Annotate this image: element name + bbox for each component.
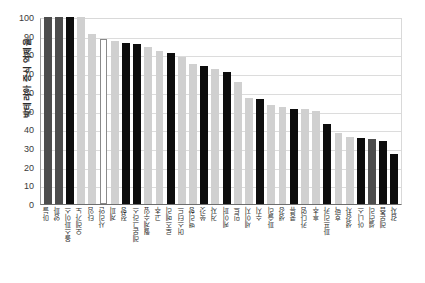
y-tick-label: 60 — [24, 88, 34, 98]
x-tick-label: 후추 — [313, 207, 321, 221]
x-tick-slot: 사리안 — [97, 207, 108, 283]
x-tick-label: 세이지 — [245, 207, 253, 228]
bar — [88, 34, 96, 204]
x-tick-slot: 호박 — [334, 207, 345, 283]
x-tick-slot: 수지 — [255, 207, 266, 283]
y-tick-label: 40 — [24, 125, 34, 135]
bar — [55, 17, 63, 204]
bar — [335, 133, 343, 204]
x-tick-label: 로즈메리 — [167, 207, 175, 235]
x-tick-label: 아니스 — [358, 207, 366, 228]
bar-slot — [344, 19, 355, 204]
x-tick-slot: 생강차 — [345, 207, 356, 283]
bar — [223, 72, 231, 204]
bar-slot — [199, 19, 210, 204]
x-tick-slot: 케이퍼 — [221, 207, 232, 283]
x-tick-slot: 머스터드 — [176, 207, 187, 283]
x-tick-label: 호박 — [335, 207, 343, 221]
bar — [66, 17, 74, 204]
bar-slot — [165, 19, 176, 204]
bar-slot — [333, 19, 344, 204]
plot-area — [40, 18, 402, 205]
x-tick-label: 정향 — [122, 207, 130, 221]
bar-slot — [255, 19, 266, 204]
x-tick-label: 겨자 — [212, 207, 220, 221]
x-tick-slot: 아니스 — [356, 207, 367, 283]
bar-slot — [120, 19, 131, 204]
bar — [111, 41, 119, 204]
x-tick-slot: 오레가노 — [75, 207, 86, 283]
bar-slot — [266, 19, 277, 204]
bar-slot — [389, 19, 400, 204]
x-tick-slot: 타임 — [86, 207, 97, 283]
y-axis-tick-labels: 1009080706050403020100 — [0, 0, 37, 223]
x-tick-label: 월계수잎 — [144, 207, 152, 235]
bar — [245, 98, 253, 204]
x-tick-slot: 마늘 — [41, 207, 52, 283]
bar-slot — [277, 19, 288, 204]
bar — [77, 17, 85, 204]
bar — [301, 109, 309, 204]
x-tick-label: 쑥갓 — [200, 207, 208, 221]
bar-slot — [243, 19, 254, 204]
bar-slot — [210, 19, 221, 204]
x-tick-label: 양파 — [54, 207, 62, 221]
bar-slot — [176, 19, 187, 204]
x-tick-slot: 생강 — [277, 207, 288, 283]
x-tick-label: 생강 — [279, 207, 287, 221]
x-tick-label: 수지 — [257, 207, 265, 221]
x-tick-slot: 레몬즙 — [379, 207, 390, 283]
x-tick-slot: 카다멈 — [300, 207, 311, 283]
bar — [234, 82, 242, 204]
bar-slot — [154, 19, 165, 204]
x-tick-slot: 감자 — [390, 207, 401, 283]
bar — [312, 111, 320, 205]
x-tick-label: 타임 — [88, 207, 96, 221]
y-tick-label: 80 — [24, 50, 34, 60]
x-tick-label: 민트 — [234, 207, 242, 221]
bar-chart: 박테리아 증식 억제율 1009080706050403020100 마늘양파올… — [0, 0, 425, 283]
x-tick-label: 백리향 — [189, 207, 197, 228]
bar-slot — [366, 19, 377, 204]
y-tick-label: 50 — [24, 107, 34, 117]
x-tick-slot: 셀러리 — [367, 207, 378, 283]
x-tick-slot: 후추 — [311, 207, 322, 283]
x-tick-slot: 겨자 — [210, 207, 221, 283]
x-tick-slot: 양파 — [52, 207, 63, 283]
x-tick-slot: 레몬그라스 — [131, 207, 142, 283]
bar-slot — [311, 19, 322, 204]
bar-slot — [187, 19, 198, 204]
bar — [357, 138, 365, 204]
bar — [178, 57, 186, 204]
bars-layer — [41, 19, 401, 204]
x-tick-slot: 정향 — [120, 207, 131, 283]
bar — [323, 124, 331, 204]
x-tick-label: 케이퍼 — [223, 207, 231, 228]
x-tick-slot: 민트 — [232, 207, 243, 283]
bar-slot — [232, 19, 243, 204]
bar-slot — [221, 19, 232, 204]
y-tick-label: 30 — [24, 144, 34, 154]
bar-slot — [76, 19, 87, 204]
bar-slot — [42, 19, 53, 204]
x-tick-label: 레몬즙 — [380, 207, 388, 228]
bar-slot — [64, 19, 75, 204]
x-tick-slot: 세이지 — [244, 207, 255, 283]
x-tick-slot: 로즈메리 — [165, 207, 176, 283]
bar-slot — [98, 19, 109, 204]
bar — [346, 137, 354, 204]
x-tick-slot: 고추 — [154, 207, 165, 283]
bar — [100, 39, 108, 204]
bar — [167, 53, 175, 204]
x-tick-label: 생강차 — [347, 207, 355, 228]
bar-slot — [143, 19, 154, 204]
x-tick-slot: 쑥갓 — [199, 207, 210, 283]
y-tick-label: 90 — [24, 32, 34, 42]
x-tick-label: 레몬그라스 — [133, 207, 141, 242]
bar-slot — [53, 19, 64, 204]
x-tick-label: 오레가노 — [77, 207, 85, 235]
x-tick-label: 올스파이스 — [65, 207, 73, 242]
bar — [290, 109, 298, 204]
bar — [44, 17, 52, 204]
bar — [200, 66, 208, 204]
